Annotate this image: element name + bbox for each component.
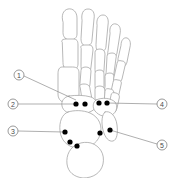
- hallux-proximal-phalanx: [62, 39, 78, 70]
- landmark-dot: [97, 130, 102, 135]
- landmark-dot: [74, 143, 79, 148]
- landmark-dot: [67, 139, 72, 144]
- callout-number-1: 1: [17, 72, 21, 79]
- landmark-dot: [62, 129, 67, 134]
- foot-skeleton-outline: [58, 9, 130, 178]
- foot-diagram-svg: 12345: [0, 0, 175, 178]
- third-distal-phalanx: [96, 15, 108, 52]
- foot-landmark-figure: 12345: [0, 0, 175, 178]
- callout-4[interactable]: 4: [157, 99, 167, 109]
- callout-number-2: 2: [11, 101, 15, 108]
- lateral-malleolus-column: [102, 112, 117, 142]
- callout-1[interactable]: 1: [14, 70, 24, 80]
- callout-number-5: 5: [160, 142, 164, 149]
- calcaneus: [67, 142, 104, 178]
- callout-number-3: 3: [11, 128, 15, 135]
- callout-3[interactable]: 3: [8, 126, 18, 136]
- landmark-dot: [82, 101, 87, 106]
- landmark-dot: [104, 100, 109, 105]
- callout-2[interactable]: 2: [8, 99, 18, 109]
- callout-number-4: 4: [160, 101, 164, 108]
- landmark-dot: [96, 100, 101, 105]
- hallux-distal-phalanx: [62, 9, 77, 40]
- leader-line-3: [18, 131, 64, 132]
- callout-5[interactable]: 5: [157, 140, 167, 150]
- landmark-dot: [73, 101, 78, 106]
- talus: [60, 111, 101, 149]
- landmark-dot: [107, 127, 112, 132]
- second-distal-phalanx: [81, 9, 94, 46]
